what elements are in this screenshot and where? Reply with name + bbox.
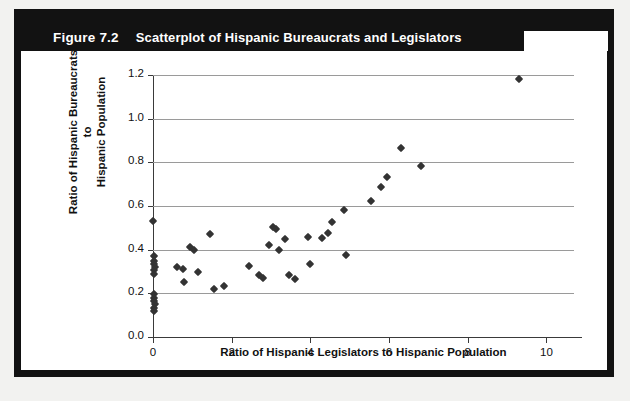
y-axis-label: Ratio of Hispanic Bureaucrats to Hispani…	[66, 47, 108, 217]
scatter-chart: Ratio of Hispanic Bureaucrats to Hispani…	[21, 51, 607, 370]
data-point	[377, 183, 385, 191]
data-point	[149, 217, 157, 225]
gridline	[153, 75, 574, 76]
plot-area: 0.00.20.40.60.81.01.20246810	[153, 75, 574, 337]
y-axis-tick-label: 0.8	[128, 154, 144, 166]
data-point	[220, 281, 228, 289]
data-point	[245, 262, 253, 270]
y-axis-tick-group: 1.2	[153, 75, 154, 76]
y-axis-tick-label: 0.4	[128, 242, 144, 254]
data-point	[180, 278, 188, 286]
data-point	[259, 274, 267, 282]
header-notch	[524, 31, 608, 51]
data-point	[342, 251, 350, 259]
x-axis-tick	[546, 337, 547, 343]
data-point	[281, 235, 289, 243]
data-point	[178, 265, 186, 273]
gridline	[153, 250, 574, 251]
data-point	[194, 267, 202, 275]
y-axis-tick-label: 1.0	[128, 111, 144, 123]
data-point	[290, 275, 298, 283]
gridline	[153, 206, 574, 207]
figure-inner-panel: Ratio of Hispanic Bureaucrats to Hispani…	[21, 51, 607, 370]
data-point	[383, 172, 391, 180]
gridline	[153, 293, 574, 294]
y-axis-tick-group: 0.8	[153, 162, 154, 163]
data-point	[190, 245, 198, 253]
figure-number: Figure 7.2	[53, 30, 119, 45]
y-axis-tick-label: 1.2	[128, 67, 144, 79]
y-axis-tick-group: 0.4	[153, 250, 154, 251]
figure-title: Scatterplot of Hispanic Bureaucrats and …	[136, 30, 462, 45]
x-axis-tick	[389, 337, 390, 343]
gridline	[153, 162, 574, 163]
data-point	[206, 230, 214, 238]
x-axis-tick	[153, 337, 154, 343]
data-point	[265, 241, 273, 249]
data-point	[275, 245, 283, 253]
figure-box: Ratio of Hispanic Bureaucrats to Hispani…	[14, 9, 614, 377]
data-point	[328, 218, 336, 226]
x-axis-label: Ratio of Hispanic Legislators to Hispani…	[153, 346, 574, 358]
data-point	[210, 285, 218, 293]
data-point	[515, 75, 523, 83]
figure-root: Ratio of Hispanic Bureaucrats to Hispani…	[0, 0, 630, 401]
data-point	[340, 206, 348, 214]
data-point	[306, 260, 314, 268]
x-axis-tick	[468, 337, 469, 343]
y-axis-tick-label: 0.0	[128, 329, 144, 341]
x-axis-line	[153, 337, 582, 338]
y-axis-label-line2: Hispanic Population	[95, 77, 107, 188]
figure-header-band: Figure 7.2Scatterplot of Hispanic Bureau…	[21, 15, 524, 51]
y-axis-tick-group: 0.6	[153, 206, 154, 207]
data-point	[304, 232, 312, 240]
y-axis-tick-group: 1.0	[153, 119, 154, 120]
data-point	[397, 144, 405, 152]
gridline	[153, 119, 574, 120]
x-axis-tick	[232, 337, 233, 343]
y-axis-label-line1: Ratio of Hispanic Bureaucrats to	[67, 50, 93, 214]
data-point	[367, 196, 375, 204]
y-axis-tick-label: 0.2	[128, 285, 144, 297]
x-axis-tick	[310, 337, 311, 343]
figure-header-text: Figure 7.2Scatterplot of Hispanic Bureau…	[53, 28, 462, 46]
y-axis-tick-label: 0.6	[128, 198, 144, 210]
